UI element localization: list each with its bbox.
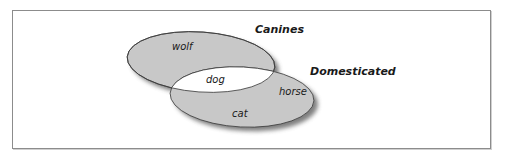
item-dog: dog <box>206 74 225 85</box>
item-wolf: wolf <box>172 41 194 52</box>
venn-diagram: Canines Domesticated wolf dog horse cat <box>0 0 505 157</box>
item-horse: horse <box>279 86 307 97</box>
domesticated-label: Domesticated <box>310 65 396 78</box>
item-cat: cat <box>232 108 249 119</box>
canines-label: Canines <box>255 23 304 36</box>
